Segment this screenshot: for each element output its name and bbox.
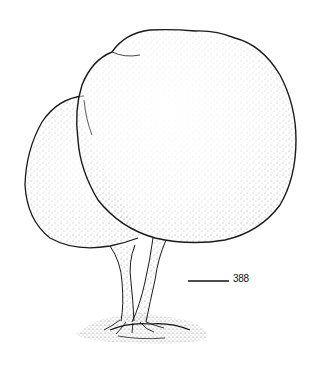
scale-bar-label: 388 [233,273,249,284]
sporangia-illustration [0,0,312,365]
large-sporangium [77,30,296,243]
